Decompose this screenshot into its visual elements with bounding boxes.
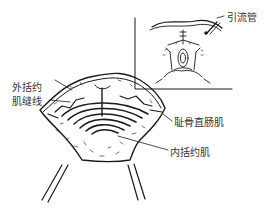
retractors	[42, 164, 145, 202]
label-drain-tube: 引流管	[227, 12, 257, 24]
label-puborectalis: 耻骨直肠肌	[174, 117, 224, 129]
surgical-illustration	[0, 0, 268, 220]
label-external-sphincter-suture-line1: 外括约	[12, 82, 42, 94]
main-illustration	[40, 73, 165, 202]
sphincter-arcs	[62, 103, 148, 134]
label-internal-sphincter: 内括约肌	[170, 147, 210, 159]
label-external-sphincter-suture-line2: 肌缝线	[12, 96, 42, 108]
inset-drawing	[150, 20, 222, 83]
